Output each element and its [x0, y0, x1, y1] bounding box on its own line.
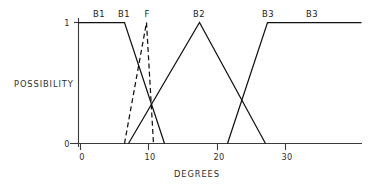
- curve-label-f: F: [144, 9, 149, 19]
- curve-label-b1-left: B1: [93, 9, 105, 19]
- curve-b1: [79, 23, 165, 144]
- curve-label-b2: B2: [193, 9, 205, 19]
- y-tick-label-1: 1: [64, 18, 70, 28]
- chart-canvas: 1 0 0 10 20 30 POSSIBILITY DEGREES B1 B1…: [0, 0, 369, 190]
- x-tick-label-30: 30: [281, 152, 292, 162]
- curve-label-b3-left: B3: [262, 9, 274, 19]
- y-tick-label-0: 0: [64, 139, 70, 149]
- curve-b3: [228, 23, 362, 144]
- curve-label-b1-right: B1: [118, 9, 130, 19]
- x-tick-label-20: 20: [213, 152, 224, 162]
- x-axis-title: DEGREES: [174, 169, 220, 179]
- x-tick-label-10: 10: [144, 152, 155, 162]
- curve-label-b3-right: B3: [306, 9, 318, 19]
- y-axis-title: POSSIBILITY: [14, 79, 74, 89]
- curve-b2: [129, 23, 266, 144]
- fuzzy-membership-chart: 1 0 0 10 20 30 POSSIBILITY DEGREES B1 B1…: [0, 0, 369, 190]
- x-tick-label-0: 0: [79, 152, 85, 162]
